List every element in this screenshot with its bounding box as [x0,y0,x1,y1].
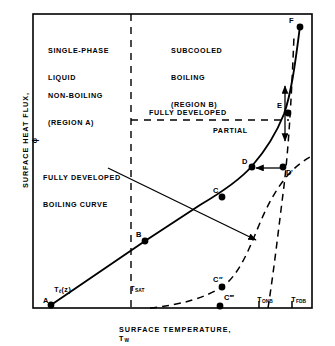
tick-label-t-fdb: TFDB [281,287,306,313]
point-label-a: A [43,296,49,305]
tick-label-t-sat: TSAT [120,276,144,302]
point-label-b: B [136,230,142,239]
point-marker-b [142,238,149,245]
annotation-partial: PARTIAL [213,126,248,135]
point-marker-c-double-prime [219,284,226,291]
point-label-d-prime: D' [286,168,293,177]
subcooled-boiling-line2: BOILING [171,73,222,82]
point-marker-c [219,194,226,201]
t-onb-subscript: ONB [262,299,273,304]
point-label-f: F [289,16,294,25]
subcooled-boiling-line1: SUBCOOLED [171,46,222,55]
point-marker-f [297,24,304,31]
point-marker-e [285,110,292,117]
region-label-non-boiling: NON-BOILING (REGION A) [48,73,103,145]
t-fdb-subscript: FDB [296,299,306,304]
point-label-c-double-prime: C″ [213,275,223,284]
point-marker-c-triple-prime [217,303,224,310]
fdb-label-leader-arrow-icon [108,168,256,240]
fdb-curve-line2: BOILING CURVE [43,200,121,209]
fully-developed-boiling-curve-dashed [150,156,312,308]
tick-label-t-onb: TONB [247,287,273,313]
point-label-c-triple-prime: C‴ [224,293,234,302]
t-sat-subscript: SAT [135,288,144,293]
fdb-curve-line1: FULLY DEVELOPED [43,173,121,182]
point-marker-d [249,164,256,171]
annotation-fully-developed-boiling-curve: FULLY DEVELOPED BOILING CURVE [43,155,121,227]
x-axis-label: SURFACE TEMPERATURE, TW [107,316,232,346]
non-boiling-line2: (REGION A) [48,118,103,127]
x-axis-label-text: SURFACE TEMPERATURE, [119,325,232,334]
point-label-d: D [242,157,248,166]
y-axis-label-text: SURFACE HEAT FLUX, [21,92,30,188]
single-phase-liquid-line1: SINGLE-PHASE [48,46,109,55]
y-axis-label-symbol: ϕ [30,137,39,143]
x-axis-label-subscript: W [124,338,129,343]
annotation-fully-developed: FULLY DEVELOPED [149,108,227,117]
non-boiling-line1: NON-BOILING [48,91,103,100]
point-label-e: E [277,101,283,110]
point-label-c: C [213,186,219,195]
t-fluid-arg: (z) [61,286,71,293]
